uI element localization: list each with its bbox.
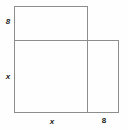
- dimension-label-bottom-horizontal: x: [45, 118, 59, 126]
- geometry-figure: 8 x x 8: [0, 0, 128, 130]
- lower-right-rectangle-outline: [88, 41, 119, 113]
- figure-canvas: [0, 0, 128, 130]
- dimension-label-bottom-right-horizontal: 8: [97, 117, 111, 125]
- lower-left-square-outline: [15, 41, 88, 113]
- dimension-label-left-vertical: x: [2, 73, 14, 81]
- top-rectangle-outline: [15, 7, 88, 41]
- dimension-label-top-left-vertical: 8: [3, 18, 13, 26]
